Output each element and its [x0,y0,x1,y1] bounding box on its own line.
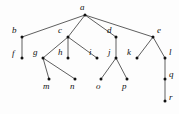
node-label-d: d [107,26,112,35]
node-dot-d[interactable] [115,36,118,39]
node-label-q: q [169,70,174,79]
node-label-m: m [43,82,50,91]
edge-e-l [153,37,165,58]
node-label-l: l [169,48,172,57]
node-label-h: h [58,48,63,57]
node-dot-r[interactable] [164,100,167,103]
node-label-o: o [96,82,101,91]
node-label-i: i [89,48,92,57]
edge-j-p [116,58,127,79]
node-label-r: r [169,93,173,102]
edge-c-g [43,37,68,58]
node-label-c: c [58,26,62,35]
node-label-a: a [80,3,85,12]
node-label-j: j [108,48,111,57]
node-dot-e[interactable] [152,36,155,39]
node-dot-h[interactable] [67,57,70,60]
edge-e-k [137,37,153,58]
tree-graph-canvas [0,0,179,114]
node-dot-c[interactable] [67,36,70,39]
node-dot-g[interactable] [42,57,45,60]
node-label-n: n [70,82,75,91]
node-dot-i[interactable] [96,57,99,60]
node-label-g: g [33,48,38,57]
node-dot-f[interactable] [21,57,24,60]
node-label-f: f [12,49,15,58]
node-dot-j[interactable] [115,57,118,60]
node-label-p: p [122,82,127,91]
node-dot-b[interactable] [21,36,24,39]
edge-a-e [85,15,153,37]
edge-a-b [22,15,85,37]
node-dot-l[interactable] [164,57,167,60]
node-label-e: e [157,26,161,35]
edge-j-o [101,58,116,79]
node-dot-k[interactable] [136,57,139,60]
tree-diagram: abcdefghijklmnopqr [0,0,179,114]
node-label-b: b [12,26,17,35]
node-dot-a[interactable] [84,14,87,17]
node-label-k: k [127,48,131,57]
node-dot-q[interactable] [164,78,167,81]
edge-c-i [68,37,97,58]
